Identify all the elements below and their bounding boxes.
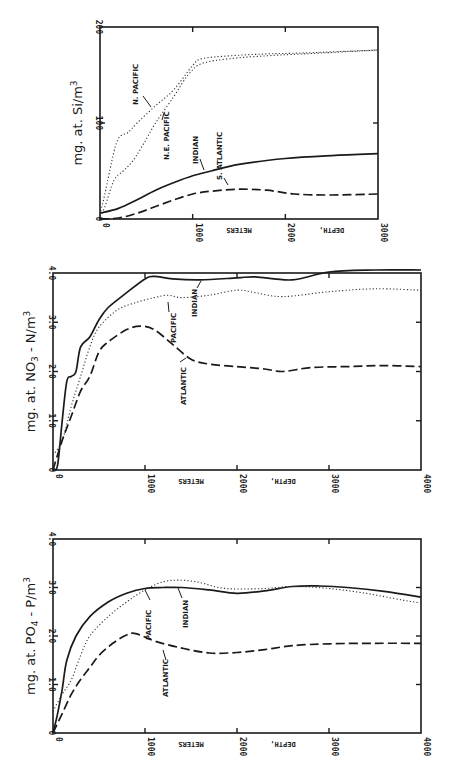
x-axis-label-depth: DEPTH,: [270, 477, 295, 485]
label-leader-line: [143, 96, 151, 107]
x-tick-label: 3000: [330, 474, 339, 493]
label-leader-line: [163, 650, 166, 660]
x-tick-label: 3000: [379, 223, 388, 242]
label-leader-line: [200, 159, 204, 170]
series-indian: [53, 586, 421, 733]
y-tick-label: 2.0: [47, 629, 56, 644]
series-label: S. ATLANTIC: [216, 132, 224, 180]
series-label: INDIAN: [182, 600, 190, 628]
y-tick-label: 3.0: [47, 315, 56, 330]
label-leader-line: [180, 358, 186, 362]
y-tick-label: 1.0: [47, 677, 56, 692]
x-axis-label-meters: METERS: [226, 226, 251, 234]
nitrate-chart: 0100020003000400001.02.03.04.0METERSDEPT…: [22, 266, 431, 494]
plot-frame: [53, 539, 421, 733]
series-label: N.E. PACIFIC: [163, 111, 171, 160]
series-label: PACIFIC: [145, 610, 153, 640]
x-tick-label: 2000: [238, 737, 247, 756]
series-indian: [53, 270, 421, 470]
label-leader-line: [224, 178, 228, 185]
y-tick-label: 4.0: [47, 532, 56, 547]
x-tick-label: 1000: [194, 223, 203, 242]
series-n-e-pacific: [100, 50, 378, 216]
series-label: INDIAN: [192, 136, 200, 164]
plot-frame: [100, 27, 378, 219]
plot-frame: [53, 273, 421, 470]
y-axis-label: mg. at. PO4 - P/m3: [22, 577, 40, 695]
y-tick-label: 4.0: [47, 266, 56, 281]
series-label: INDIAN: [191, 289, 199, 317]
x-tick-label: 4000: [422, 474, 431, 493]
silicate-chart: 01000200030000100200METERSDEPTH,mg. at. …: [69, 20, 388, 243]
x-tick-label: 0: [54, 474, 63, 479]
x-tick-label: 1000: [146, 474, 155, 493]
x-tick-label: 0: [101, 223, 110, 228]
series-label: PACIFIC: [170, 313, 178, 343]
x-axis-label-depth: DEPTH,: [319, 226, 344, 234]
y-axis-label: mg. at. Si/m3: [69, 80, 85, 165]
phosphate-chart: 0100020003000400001.02.03.04.0METERSDEPT…: [22, 532, 431, 757]
x-tick-label: 2000: [286, 223, 295, 242]
series-atlantic: [53, 326, 421, 470]
y-tick-label: 2.0: [47, 364, 56, 379]
label-leader-line: [168, 302, 169, 312]
series-s-atlantic: [100, 189, 378, 219]
y-tick-label: 200: [94, 20, 103, 35]
label-leader-line: [178, 588, 182, 598]
x-tick-label: 3000: [330, 737, 339, 756]
x-tick-label: 0: [54, 737, 63, 742]
series-atlantic: [53, 633, 421, 733]
series-label: N. PACIFIC: [132, 64, 140, 105]
x-axis-label-meters: METERS: [178, 477, 203, 485]
x-tick-label: 4000: [422, 737, 431, 756]
x-axis-label-depth: DEPTH,: [270, 740, 295, 748]
y-tick-label: 3.0: [47, 580, 56, 595]
x-tick-label: 2000: [238, 474, 247, 493]
x-tick-label: 1000: [146, 737, 155, 756]
series-label: ATLANTIC: [162, 659, 170, 697]
x-axis-label-meters: METERS: [178, 740, 203, 748]
series-pacific: [53, 580, 421, 711]
series-pacific: [53, 289, 421, 455]
series-indian: [100, 154, 378, 214]
y-tick-label: 100: [94, 116, 103, 131]
label-leader-line: [197, 281, 201, 288]
label-leader-line: [145, 590, 150, 600]
figure: 01000200030000100200METERSDEPTH,mg. at. …: [0, 0, 451, 771]
y-axis-label: mg. at. NO3 - N/m3: [22, 311, 40, 433]
series-label: ATLANTIC: [180, 367, 188, 405]
y-tick-label: 1.0: [47, 414, 56, 429]
